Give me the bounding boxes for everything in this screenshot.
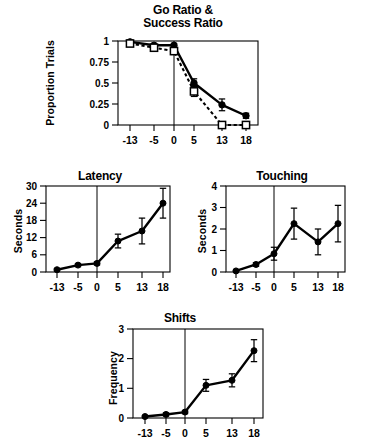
xtick--5: -5 [251,281,260,293]
ytick-24: 24 [26,198,38,209]
series-line-touching [236,224,338,271]
ytick-6: 6 [31,249,37,260]
xtick-18: 18 [332,281,344,293]
ytick-1: 1 [118,383,124,394]
data-point-marker [271,251,277,257]
data-point-marker [242,121,249,128]
data-point-marker [170,47,177,54]
ytick-0: 0 [118,413,124,424]
data-point-marker [219,102,225,108]
data-point-marker [142,414,148,420]
data-point-marker [243,113,249,119]
ytick-1: 1 [211,245,217,256]
data-point-marker [233,268,239,274]
data-point-marker [163,411,169,417]
plot-touching: 0 1 2 3 4 -13 -5 0 5 13 18 [185,160,367,300]
xtick-0: 0 [171,134,177,146]
data-point-marker [291,221,297,227]
data-point-marker [229,377,235,383]
xtick-13: 13 [216,134,228,146]
ytick-3: 3 [118,324,124,335]
data-point-marker [182,409,188,415]
panel-go-success-ratio: Go Ratio &Success Ratio Proportion Trial… [0,0,300,155]
data-point-marker [139,228,145,234]
series-group-go-success-ratio [126,39,249,129]
xtick--13: -13 [49,281,64,293]
xtick--13: -13 [228,281,243,293]
ytick-12: 12 [26,232,38,243]
xtick-0: 0 [182,427,188,439]
xtick-18: 18 [240,134,252,146]
data-point-marker [54,267,60,273]
ytick-2: 2 [118,353,124,364]
xtick-18: 18 [248,427,260,439]
panel-latency: Latency Seconds 0 6 12 18 24 30 -13 [0,160,185,300]
ytick-18: 18 [26,215,38,226]
caption-strip [0,440,367,447]
xtick--5: -5 [73,281,82,293]
data-point-marker [253,261,259,267]
data-point-marker [190,88,197,95]
data-point-marker [126,40,133,47]
xtick--5: -5 [149,134,158,146]
xtick-5: 5 [115,281,121,293]
xtick-0: 0 [271,281,277,293]
ytick-0: 0 [31,267,37,278]
ytick-05: 0.5 [95,78,109,89]
series-line-latency [57,203,163,270]
data-point-marker [315,239,321,245]
panel-shifts: Shifts Frequency 0 1 2 3 -13 -5 0 5 13 [95,310,295,447]
xtick-13: 13 [312,281,324,293]
ytick-0: 0 [103,120,109,131]
data-point-marker [150,44,157,51]
xtick-18: 18 [157,281,169,293]
series-group-latency [54,188,166,272]
xtick-5: 5 [291,281,297,293]
xtick-13: 13 [136,281,148,293]
ytick-1: 1 [103,36,109,47]
xtick--13: -13 [137,427,152,439]
plot-shifts: 0 1 2 3 -13 -5 0 5 13 18 [95,310,295,447]
ytick-3: 3 [211,202,217,213]
xtick--5: -5 [161,427,170,439]
data-point-marker [160,200,166,206]
data-point-marker [335,221,341,227]
ytick-0: 0 [211,267,217,278]
data-point-marker [218,121,225,128]
ytick-4: 4 [211,181,217,192]
ytick-30: 30 [26,181,38,192]
figure-canvas: Go Ratio &Success Ratio Proportion Trial… [0,0,367,447]
series-group-shifts [142,340,257,420]
xtick-0: 0 [94,281,100,293]
data-point-marker [203,382,209,388]
xtick-5: 5 [191,134,197,146]
xtick-13: 13 [226,427,238,439]
xtick-5: 5 [203,427,209,439]
plot-go-success-ratio: 0 0.25 0.5 0.75 1 -13 -5 0 5 13 18 [0,0,300,155]
ytick-2: 2 [211,224,217,235]
panel-touching: Touching Seconds 0 1 2 3 4 -13 -5 0 5 [185,160,367,300]
data-point-marker [115,238,121,244]
series-line-success-ratio [130,44,246,125]
data-point-marker [94,260,100,266]
data-point-marker [251,348,257,354]
plot-latency: 0 6 12 18 24 30 -13 -5 0 5 13 18 [0,160,185,300]
series-group-touching [233,205,341,274]
xtick--13: -13 [122,134,137,146]
ytick-025: 0.25 [90,99,110,110]
series-line-shifts [145,351,254,417]
data-point-marker [75,262,81,268]
ytick-075: 0.75 [90,57,110,68]
